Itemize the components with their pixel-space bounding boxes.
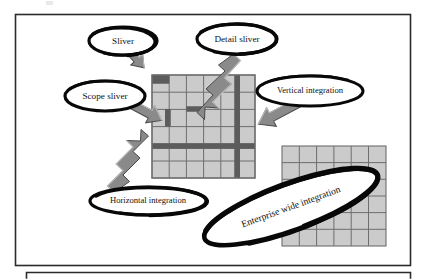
callout-scope-sliver-label: Scope sliver [82,91,127,101]
callout-sliver-label: Sliver [112,36,134,46]
callout-scope-sliver[interactable]: Scope sliver [65,81,145,111]
callout-vertical-integration-label: Vertical integration [277,85,344,95]
figure-root: Sliver Detail sliver Scope sliver Vertic… [0,0,428,279]
callout-sliver[interactable]: Sliver [89,27,157,56]
diagram-canvas: Sliver Detail sliver Scope sliver Vertic… [0,0,428,279]
callout-vertical-integration[interactable]: Vertical integration [257,76,363,106]
callout-detail-sliver[interactable]: Detail sliver [197,24,277,55]
scan-artifact [46,1,53,5]
main-grid [152,75,255,178]
callout-horizontal-integration-label: Horizontal integration [110,195,187,205]
callout-horizontal-integration[interactable]: Horizontal integration [90,187,207,216]
callout-detail-sliver-label: Detail sliver [214,34,259,44]
